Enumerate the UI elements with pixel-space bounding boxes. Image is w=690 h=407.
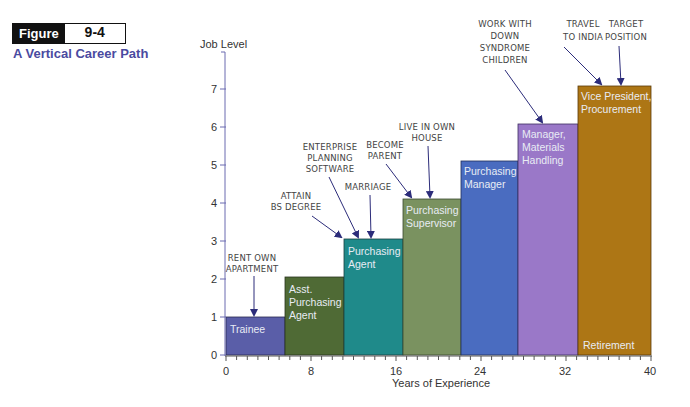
bar-label-materials-1: Manager, — [522, 128, 566, 140]
arrow-parent — [386, 164, 411, 197]
annotation-erp-3: SOFTWARE — [306, 164, 355, 174]
annotation-house-1: LIVE IN OWN — [399, 122, 455, 132]
arrow-bs — [312, 216, 341, 237]
y-tick-4: 4 — [211, 197, 217, 209]
x-tick-40: 40 — [644, 365, 656, 377]
x-tick-16: 16 — [390, 365, 402, 377]
arrow-target — [619, 46, 621, 84]
y-tick-2: 2 — [211, 273, 217, 285]
y-tick-5: 5 — [211, 159, 217, 171]
annotation-rent-1: RENT OWN — [228, 253, 277, 263]
annotation-bs-2: BS DEGREE — [271, 202, 322, 212]
x-minor-ticks — [226, 356, 651, 361]
y-tick-7: 7 — [211, 83, 217, 95]
annotation-target-2: POSITION — [605, 32, 647, 42]
x-tick-24: 24 — [474, 365, 486, 377]
bar-label-supervisor-2: Supervisor — [406, 217, 457, 229]
x-tick-8: 8 — [308, 365, 314, 377]
bar-label-vp-2: Procurement — [581, 103, 641, 115]
bar-label-agent-2: Agent — [348, 258, 376, 270]
bar-label-manager-2: Manager — [464, 178, 506, 190]
x-tick-32: 32 — [559, 365, 571, 377]
annotation-house-2: HOUSE — [411, 133, 442, 143]
arrow-work — [505, 70, 542, 122]
annotation-erp-1: ENTERPRISE — [303, 142, 358, 152]
bar-label-supervisor-1: Purchasing — [406, 204, 459, 216]
bar-label-materials-2: Materials — [522, 141, 565, 153]
annotation-travel-2: TO INDIA — [562, 32, 603, 42]
bar-purchasing-manager — [461, 161, 518, 355]
annotation-work-2: DOWN — [491, 31, 520, 41]
career-path-chart: Trainee Asst. Purchasing Agent Purchasin… — [0, 0, 690, 407]
y-tick-1: 1 — [211, 311, 217, 323]
x-tick-0: 0 — [223, 365, 229, 377]
y-axis-label: Job Level — [200, 38, 247, 50]
bar-label-manager-1: Purchasing — [464, 165, 517, 177]
annotation-work-4: CHILDREN — [482, 55, 527, 65]
annotation-parent-2: PARENT — [368, 151, 403, 161]
arrow-marriage — [370, 195, 371, 237]
annotation-work-1: WORK WITH — [478, 19, 532, 29]
y-tick-6: 6 — [211, 121, 217, 133]
y-tick-3: 3 — [211, 235, 217, 247]
annotation-rent-2: APARTMENT — [226, 264, 279, 274]
arrow-house — [428, 146, 430, 197]
bar-label-agent-1: Purchasing — [348, 245, 401, 257]
y-tick-0: 0 — [211, 349, 217, 361]
annotation-marriage: MARRIAGE — [345, 182, 392, 192]
annotation-parent-1: BECOME — [366, 140, 404, 150]
arrow-travel — [564, 47, 601, 84]
annotation-target-1: TARGET — [608, 19, 644, 29]
bar-label-asst-3: Agent — [289, 309, 317, 321]
annotation-work-3: SYNDROME — [480, 43, 530, 53]
bar-label-retirement: Retirement — [583, 339, 634, 351]
bar-label-materials-3: Handling — [522, 154, 564, 166]
annotation-travel-1: TRAVEL — [565, 19, 599, 29]
bar-label-trainee: Trainee — [230, 323, 265, 335]
annotation-erp-2: PLANNING — [307, 153, 353, 163]
bar-vice-president — [578, 86, 651, 355]
x-axis-label: Years of Experience — [392, 377, 490, 389]
annotation-bs-1: ATTAIN — [281, 191, 312, 201]
bar-label-asst-1: Asst. — [289, 283, 312, 295]
bar-label-asst-2: Purchasing — [289, 296, 342, 308]
bar-label-vp-1: Vice President, — [581, 90, 651, 102]
